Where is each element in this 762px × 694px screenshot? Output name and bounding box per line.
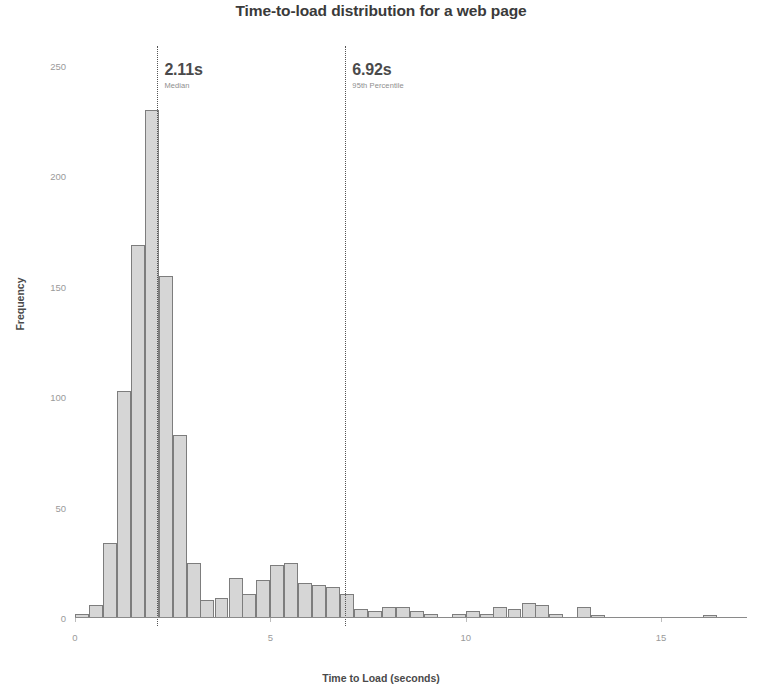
annotation-value-median: 2.11s (164, 62, 202, 79)
histogram-bar (200, 600, 214, 618)
annotation-label-p95: 95th Percentile (352, 81, 404, 90)
reference-line-median (157, 46, 158, 626)
annotation-label-median: Median (164, 81, 202, 90)
histogram-bar (298, 583, 312, 618)
annotation-value-p95: 6.92s (352, 62, 404, 79)
histogram-bar (326, 587, 340, 618)
y-tick-label: 200 (35, 171, 75, 182)
x-tick-label: 5 (268, 632, 273, 643)
annotation-p95: 6.92s95th Percentile (352, 62, 404, 90)
x-tick-mark (270, 618, 271, 622)
histogram-bar (89, 605, 103, 618)
x-tick-label: 0 (72, 632, 77, 643)
annotation-median: 2.11sMedian (164, 62, 202, 90)
x-tick-label: 15 (656, 632, 667, 643)
histogram-bar (229, 578, 243, 618)
y-axis-ticks: 050100150200250 (21, 55, 75, 618)
histogram-bar (117, 391, 131, 618)
histogram-bar (284, 563, 298, 618)
chart-container: Time-to-load distribution for a web page… (0, 0, 762, 694)
histogram-bar (256, 580, 270, 618)
histogram-bar (173, 435, 187, 618)
x-axis-ticks: 051015 (75, 618, 747, 648)
histogram-bar (522, 603, 536, 618)
histogram-bar (270, 565, 284, 618)
x-tick-mark (661, 618, 662, 622)
histogram-bar (312, 585, 326, 618)
histogram-bar (242, 594, 256, 618)
y-tick-label: 250 (35, 61, 75, 72)
histogram-bar (340, 594, 354, 618)
chart-title: Time-to-load distribution for a web page (0, 2, 762, 20)
x-tick-mark (466, 618, 467, 622)
histogram-bars (75, 55, 747, 618)
histogram-bar (103, 543, 117, 618)
histogram-bar (215, 598, 229, 618)
x-tick-label: 10 (460, 632, 471, 643)
histogram-bar (187, 563, 201, 618)
x-tick-mark (75, 618, 76, 622)
reference-line-p95 (345, 46, 346, 626)
histogram-bar (535, 605, 549, 618)
y-tick-label: 0 (35, 613, 75, 624)
y-tick-label: 50 (35, 502, 75, 513)
x-axis-title: Time to Load (seconds) (0, 672, 762, 684)
histogram-bar (159, 276, 173, 618)
y-tick-label: 100 (35, 392, 75, 403)
y-tick-label: 150 (35, 281, 75, 292)
histogram-bar (131, 245, 145, 618)
plot-area (75, 55, 747, 618)
